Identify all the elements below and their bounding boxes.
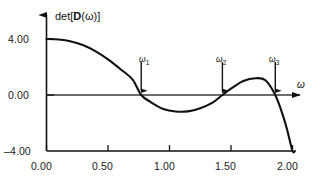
chart-figure: 4.00 0.00 –4.00 0.00 0.50 1.00 1.50 2.00… xyxy=(0,0,324,179)
omega-3-subscript: 3 xyxy=(276,59,280,66)
omega-2-symbol: ω xyxy=(216,54,223,64)
y-tick-label-4: 4.00 xyxy=(8,33,29,45)
omega-arrows-group xyxy=(141,62,275,91)
omega-3-symbol: ω xyxy=(269,54,276,64)
y-axis-title: det[D(ω)] xyxy=(55,10,100,22)
y-tick-marks xyxy=(47,39,55,95)
omega-1-subscript: 1 xyxy=(146,59,150,66)
x-tick-label-150: 1.50 xyxy=(215,160,236,172)
plot-canvas xyxy=(0,0,324,179)
omega-2-subscript: 2 xyxy=(223,59,227,66)
y-axis-title-suffix: (ω)] xyxy=(81,10,100,22)
y-tick-label-neg4: –4.00 xyxy=(4,145,31,157)
x-axis-title: ω xyxy=(297,79,305,90)
determinant-curve xyxy=(47,39,295,152)
x-tick-marks xyxy=(47,145,293,151)
x-tick-label-050: 0.50 xyxy=(92,160,113,172)
y-tick-label-0: 0.00 xyxy=(8,89,29,101)
x-tick-label-0: 0.00 xyxy=(31,160,52,172)
omega-3-label: ω3 xyxy=(269,54,279,66)
x-tick-label-200: 2.00 xyxy=(277,160,298,172)
omega-1-label: ω1 xyxy=(139,54,149,66)
y-axis-title-prefix: det[ xyxy=(55,10,73,22)
omega-2-label: ω2 xyxy=(216,54,226,66)
x-tick-label-100: 1.00 xyxy=(154,160,175,172)
omega-1-symbol: ω xyxy=(139,54,146,64)
